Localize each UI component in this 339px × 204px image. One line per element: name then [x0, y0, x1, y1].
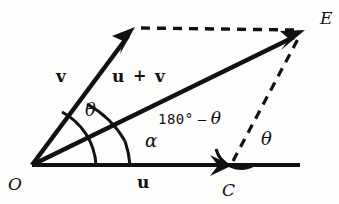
- label-angle-theta-at-c: θ: [261, 130, 272, 148]
- label-origin-o: O: [8, 176, 22, 193]
- label-sum-u: u: [112, 68, 125, 85]
- label-vector-v: v: [56, 68, 66, 85]
- vector-diagram-figure: O C E v u u + v θ α θ 180°–θ: [0, 0, 339, 204]
- vector-v-shaft: [32, 36, 128, 165]
- label-angle-alpha: α: [145, 132, 157, 150]
- label-sum-plus: +: [133, 68, 146, 84]
- dashed-top-edge: [141, 28, 298, 30]
- label-sum-v: v: [155, 68, 165, 85]
- label-angle-theta-origin: θ: [85, 101, 96, 119]
- label-point-e: E: [320, 10, 332, 27]
- vector-diagram-canvas: [0, 0, 339, 204]
- label-supplement-expression: 180°–θ: [158, 110, 221, 127]
- vector-sum-shaft: [32, 37, 294, 165]
- supplement-prefix: 180°: [158, 111, 194, 127]
- supplement-minus: –: [194, 111, 211, 127]
- angle-arc-alpha: [125, 141, 130, 165]
- label-vector-u: u: [137, 174, 150, 191]
- label-point-c: C: [222, 182, 235, 199]
- supplement-theta: θ: [211, 108, 222, 128]
